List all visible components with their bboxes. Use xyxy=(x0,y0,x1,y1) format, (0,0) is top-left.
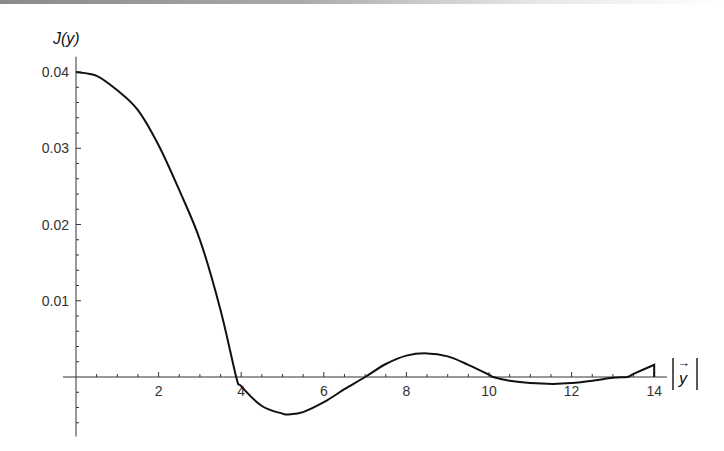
vector-arrow-icon: → xyxy=(677,355,690,370)
x-tick-label: 12 xyxy=(564,383,580,399)
x-tick-label: 10 xyxy=(481,383,497,399)
x-tick-label: 2 xyxy=(155,383,163,399)
x-tick-label: 8 xyxy=(403,383,411,399)
y-tick-label: 0.03 xyxy=(42,140,69,156)
y-tick-label: 0.04 xyxy=(42,64,69,80)
y-tick-label: 0.01 xyxy=(42,293,69,309)
axis-ticks xyxy=(76,72,654,423)
tick-labels: 24681012140.010.020.030.04 xyxy=(42,64,662,399)
x-axis-title-variable: y xyxy=(678,370,688,387)
y-axis-title: J(y) xyxy=(52,30,80,47)
x-axis-title: y → xyxy=(673,355,697,390)
line-chart: 24681012140.010.020.030.04 J(y) y → xyxy=(0,0,724,451)
data-curve-J xyxy=(76,72,654,415)
y-tick-label: 0.02 xyxy=(42,217,69,233)
axes xyxy=(63,57,667,437)
x-tick-label: 14 xyxy=(646,383,662,399)
x-tick-label: 6 xyxy=(320,383,328,399)
